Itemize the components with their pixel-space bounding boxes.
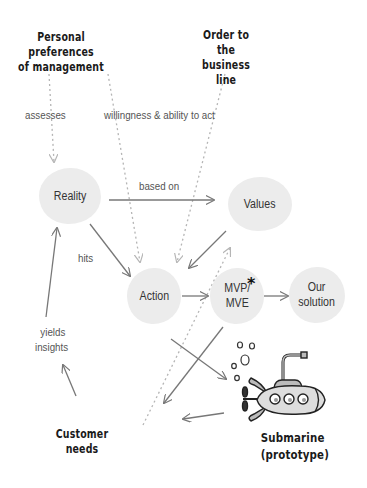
node-label-line: Our — [299, 280, 336, 295]
label-line: insights — [35, 340, 68, 355]
arrow-customer-to-yields — [63, 365, 76, 396]
dotted-arrow-willingness — [108, 74, 140, 262]
node-reality: Reality — [39, 168, 101, 224]
node-values: Values — [228, 177, 292, 231]
heading-line: Customer needs — [43, 427, 122, 457]
label-based-on: based on — [139, 180, 179, 192]
node-our-solution: Our solution — [289, 267, 345, 323]
node-label: Our solution — [299, 280, 336, 310]
node-mvp-mve: MVP/ MVE — [210, 268, 264, 324]
heading-line: (prototype) — [261, 446, 322, 463]
heading-line: Order to the — [193, 28, 259, 58]
heading-personal-preferences: Personal preferences of management — [16, 30, 106, 75]
heading-line: of management — [16, 60, 106, 75]
node-label: Reality — [54, 189, 86, 204]
label-line: yields — [35, 325, 68, 340]
node-action: Action — [127, 268, 181, 324]
arrow-reality-to-action — [90, 224, 130, 276]
label-willingness: willingness & ability to act — [104, 109, 215, 121]
submarine-icon — [243, 352, 326, 421]
node-label: Action — [139, 289, 169, 304]
heading-line: Submarine — [261, 429, 322, 446]
node-label: Values — [244, 197, 276, 212]
node-label-line: solution — [299, 295, 336, 310]
asterisk-marker: * — [247, 274, 255, 293]
heading-order-business-line: Order to the business line — [193, 28, 259, 88]
dotted-arrow-order — [177, 74, 225, 262]
heading-customer-needs: Customer needs — [43, 427, 122, 457]
arrow-yields-to-reality — [46, 228, 57, 317]
arrow-submarine-to-customer — [183, 413, 224, 419]
arrow-values-to-action — [189, 231, 226, 268]
heading-line: business line — [193, 58, 259, 88]
bubbles-icon — [232, 342, 255, 381]
node-label-line: MVE — [224, 296, 250, 311]
heading-submarine-prototype: Submarine (prototype) — [261, 429, 322, 463]
arrow-mvp-to-customer — [164, 327, 223, 403]
label-yields-insights: yields insights — [35, 325, 68, 355]
label-assesses: assesses — [25, 109, 66, 121]
label-hits: hits — [78, 252, 93, 264]
heading-line: Personal preferences — [16, 30, 106, 60]
